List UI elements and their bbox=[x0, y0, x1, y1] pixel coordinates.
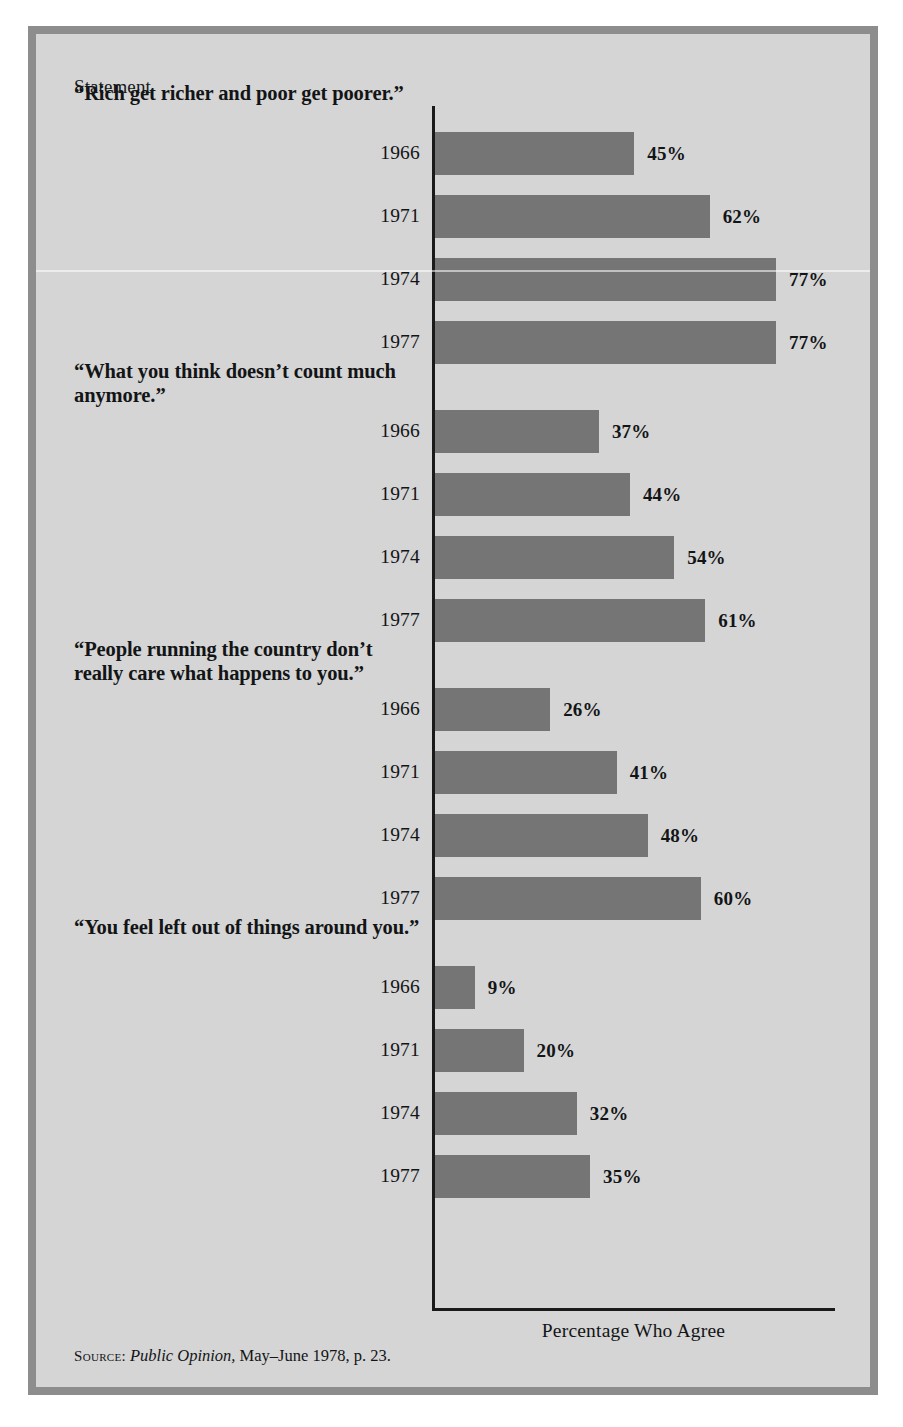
bar bbox=[435, 410, 599, 453]
year-label: 1977 bbox=[310, 1165, 420, 1187]
year-label: 1971 bbox=[310, 483, 420, 505]
year-label: 1977 bbox=[310, 609, 420, 631]
x-axis-label: Percentage Who Agree bbox=[432, 1320, 835, 1342]
statement-text: “Rich get richer and poor get poorer.” bbox=[74, 82, 424, 106]
figure-canvas: Statement “Rich get richer and poor get … bbox=[36, 34, 870, 1387]
bar-value-label: 77% bbox=[789, 332, 828, 354]
year-label: 1966 bbox=[310, 976, 420, 998]
bar-value-label: 20% bbox=[537, 1040, 576, 1062]
bar bbox=[435, 258, 776, 301]
year-label: 1966 bbox=[310, 420, 420, 442]
bar-value-label: 35% bbox=[603, 1166, 642, 1188]
source-note: Source: Public Opinion, May–June 1978, p… bbox=[74, 1346, 391, 1366]
bar-value-label: 61% bbox=[718, 610, 757, 632]
bar-chart: “Rich get richer and poor get poorer.”19… bbox=[36, 34, 870, 1387]
bar bbox=[435, 966, 475, 1009]
year-label: 1977 bbox=[310, 331, 420, 353]
bar bbox=[435, 1029, 524, 1072]
bar bbox=[435, 688, 550, 731]
year-label: 1971 bbox=[310, 205, 420, 227]
year-label: 1974 bbox=[310, 824, 420, 846]
year-label: 1974 bbox=[310, 268, 420, 290]
bar-value-label: 9% bbox=[488, 977, 517, 999]
bar bbox=[435, 814, 648, 857]
bar-value-label: 32% bbox=[590, 1103, 629, 1125]
year-label: 1971 bbox=[310, 1039, 420, 1061]
statement-text: “You feel left out of things around you.… bbox=[74, 916, 424, 940]
bar-value-label: 26% bbox=[563, 699, 602, 721]
bar bbox=[435, 473, 630, 516]
year-label: 1971 bbox=[310, 761, 420, 783]
source-detail: May–June 1978, p. 23. bbox=[240, 1346, 391, 1365]
x-axis-line bbox=[432, 1308, 835, 1311]
bar bbox=[435, 751, 617, 794]
statement-text: “What you think doesn’t count much anymo… bbox=[74, 360, 424, 408]
source-label: Source: bbox=[74, 1348, 126, 1364]
bar-value-label: 41% bbox=[630, 762, 669, 784]
figure-frame: Statement “Rich get richer and poor get … bbox=[28, 26, 878, 1395]
bar bbox=[435, 536, 674, 579]
bar bbox=[435, 1155, 590, 1198]
year-label: 1966 bbox=[310, 698, 420, 720]
year-label: 1974 bbox=[310, 1102, 420, 1124]
bar-value-label: 62% bbox=[723, 206, 762, 228]
bar-value-label: 60% bbox=[714, 888, 753, 910]
bar-value-label: 37% bbox=[612, 421, 651, 443]
bar bbox=[435, 195, 710, 238]
bar-value-label: 45% bbox=[647, 143, 686, 165]
bar-value-label: 44% bbox=[643, 484, 682, 506]
bar-value-label: 48% bbox=[661, 825, 700, 847]
bar bbox=[435, 321, 776, 364]
bar bbox=[435, 1092, 577, 1135]
year-label: 1974 bbox=[310, 546, 420, 568]
bar-value-label: 77% bbox=[789, 269, 828, 291]
bar bbox=[435, 132, 634, 175]
source-publication: Public Opinion, bbox=[130, 1346, 235, 1365]
year-label: 1977 bbox=[310, 887, 420, 909]
bar-value-label: 54% bbox=[687, 547, 726, 569]
year-label: 1966 bbox=[310, 142, 420, 164]
bar bbox=[435, 599, 705, 642]
bar bbox=[435, 877, 701, 920]
statement-text: “People running the country don’t really… bbox=[74, 638, 424, 686]
